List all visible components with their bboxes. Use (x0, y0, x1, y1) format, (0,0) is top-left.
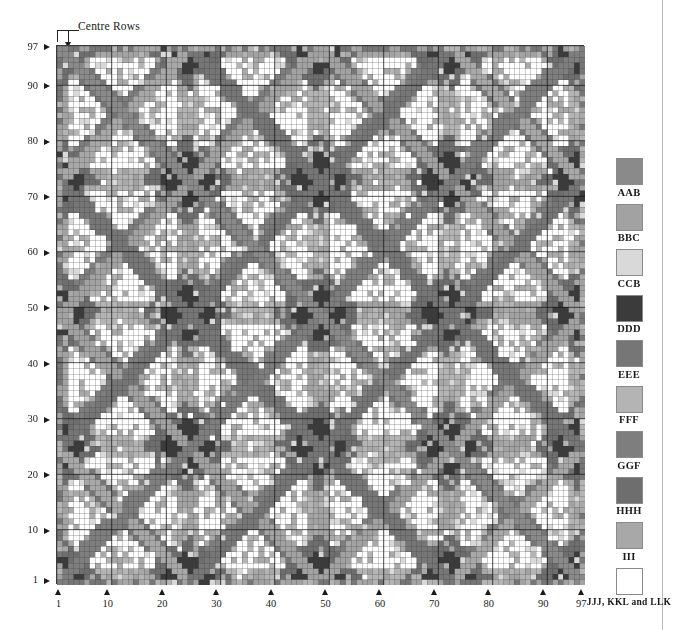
y-axis-tick-label: 1 (8, 574, 38, 585)
legend-swatch (616, 477, 643, 504)
legend-label: CCB (598, 278, 660, 290)
legend-item: EEE (598, 340, 660, 381)
legend-item: GGF (598, 431, 660, 472)
y-axis-tick-marker-icon (44, 578, 50, 584)
x-axis-tick-marker-icon (540, 589, 546, 595)
x-axis-tick-label: 1 (44, 598, 74, 609)
legend-swatch (616, 204, 643, 231)
x-axis-tick-marker-icon (431, 589, 437, 595)
heatmap-grid (56, 45, 584, 584)
legend-swatch (616, 340, 643, 367)
y-axis-tick-marker-icon (44, 361, 50, 367)
legend-item: AAB (598, 158, 660, 199)
figure-page: Centre Rows 110203040506070809097 110203… (0, 0, 688, 630)
legend-item: BBC (598, 204, 660, 245)
legend-label: JJJ, KKL and LLK (576, 596, 682, 608)
legend-label: AAB (598, 187, 660, 199)
legend-item: III (598, 522, 660, 563)
legend-swatch (616, 295, 643, 322)
x-axis-tick-marker-icon (376, 589, 382, 595)
x-axis-tick-marker-icon (578, 589, 584, 595)
y-axis-tick-label: 30 (8, 413, 38, 424)
legend-swatch (616, 522, 643, 549)
y-axis-tick-label: 20 (8, 469, 38, 480)
y-axis-tick-label: 90 (8, 80, 38, 91)
x-axis-tick-marker-icon (322, 589, 328, 595)
x-axis-tick-label: 80 (474, 598, 504, 609)
legend-swatch (616, 249, 643, 276)
x-axis-tick-label: 50 (310, 598, 340, 609)
x-axis-tick-label: 20 (147, 598, 177, 609)
y-axis-tick-marker-icon (44, 305, 50, 311)
y-axis-tick-label: 40 (8, 358, 38, 369)
y-axis-tick-label: 97 (8, 41, 38, 52)
legend-item: DDD (598, 295, 660, 336)
legend-label: III (598, 551, 660, 563)
y-axis-tick-marker-icon (44, 417, 50, 423)
legend-item: HHH (598, 477, 660, 518)
legend-label: GGF (598, 460, 660, 472)
y-axis-tick-marker-icon (44, 139, 50, 145)
legend-swatch (616, 386, 643, 413)
heatmap-canvas (57, 46, 585, 585)
legend-item: CCB (598, 249, 660, 290)
y-axis-tick-marker-icon (44, 194, 50, 200)
x-axis-tick-label: 60 (365, 598, 395, 609)
legend: AABBBCCCBDDDEEEFFFGGFHHHIIIJJJ, KKL and … (598, 158, 660, 613)
centre-rows-label: Centre Rows (78, 20, 140, 32)
x-axis-tick-marker-icon (159, 589, 165, 595)
x-axis-tick-marker-icon (485, 589, 491, 595)
x-axis-tick-label: 90 (528, 598, 558, 609)
y-axis-tick-label: 80 (8, 135, 38, 146)
x-axis-tick-marker-icon (268, 589, 274, 595)
y-axis-tick-marker-icon (44, 250, 50, 256)
y-axis-tick-marker-icon (44, 472, 50, 478)
page-rule (662, 0, 663, 630)
x-axis-tick-label: 40 (256, 598, 286, 609)
x-axis-tick-label: 30 (202, 598, 232, 609)
legend-swatch (616, 158, 643, 185)
x-axis-tick-label: 10 (93, 598, 123, 609)
x-axis-tick-marker-icon (104, 589, 110, 595)
x-axis-tick-marker-icon (213, 589, 219, 595)
centre-rows-bracket-left (57, 30, 58, 42)
y-axis-tick-label: 50 (8, 302, 38, 313)
legend-label: BBC (598, 232, 660, 244)
y-axis-tick-label: 70 (8, 191, 38, 202)
x-axis-tick-marker-icon (55, 589, 61, 595)
legend-item: FFF (598, 386, 660, 427)
x-axis-tick-label: 70 (419, 598, 449, 609)
legend-label: HHH (598, 505, 660, 517)
y-axis-tick-marker-icon (44, 44, 50, 50)
legend-label: DDD (598, 323, 660, 335)
legend-item: JJJ, KKL and LLK (598, 568, 660, 609)
y-axis-tick-marker-icon (44, 83, 50, 89)
legend-label: FFF (598, 414, 660, 426)
legend-swatch (616, 568, 643, 595)
y-axis-tick-label: 10 (8, 524, 38, 535)
legend-label: EEE (598, 369, 660, 381)
legend-swatch (616, 431, 643, 458)
y-axis-tick-marker-icon (44, 528, 50, 534)
y-axis-tick-label: 60 (8, 246, 38, 257)
